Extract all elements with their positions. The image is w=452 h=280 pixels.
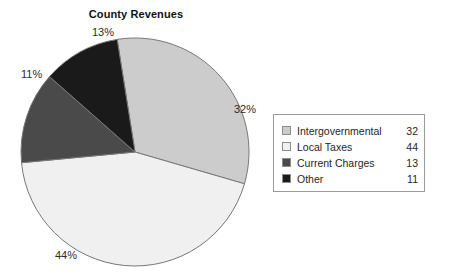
legend-item-label: Local Taxes xyxy=(297,141,400,153)
legend-item-value: 13 xyxy=(400,157,418,169)
legend-swatch-icon xyxy=(282,158,291,167)
chart-legend: Intergovernmental32Local Taxes44Current … xyxy=(273,114,425,192)
legend-item-value: 11 xyxy=(400,173,418,185)
legend-item-label: Current Charges xyxy=(297,157,400,169)
pie-slice-group xyxy=(21,38,249,266)
pie-label-intergovernmental: 32% xyxy=(234,103,256,115)
legend-item-value: 44 xyxy=(400,141,418,153)
legend-item-value: 32 xyxy=(400,125,418,137)
legend-item[interactable]: Other11 xyxy=(282,171,418,186)
legend-item-label: Other xyxy=(297,173,400,185)
legend-item[interactable]: Local Taxes44 xyxy=(282,139,418,154)
pie-label-current-charges: 13% xyxy=(92,26,114,38)
legend-item-label: Intergovernmental xyxy=(297,125,400,137)
pie-chart-figure: County Revenues 32% 44% 13% 11% Intergov… xyxy=(0,0,452,280)
pie-label-local-taxes: 44% xyxy=(55,249,77,261)
legend-item-list: Intergovernmental32Local Taxes44Current … xyxy=(282,123,418,187)
legend-swatch-icon xyxy=(282,126,291,135)
legend-item[interactable]: Intergovernmental32 xyxy=(282,123,418,138)
pie-label-other: 11% xyxy=(21,68,42,80)
legend-item[interactable]: Current Charges13 xyxy=(282,155,418,170)
legend-swatch-icon xyxy=(282,174,291,183)
legend-swatch-icon xyxy=(282,142,291,151)
